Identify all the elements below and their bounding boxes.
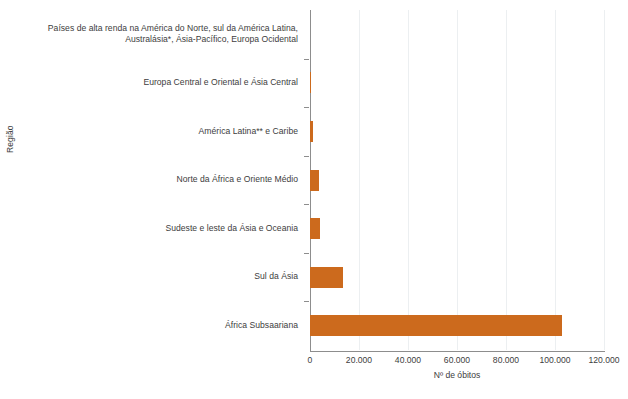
x-axis-line bbox=[310, 351, 605, 352]
bar-chart: Região Países de alta renda na América d… bbox=[0, 0, 628, 399]
y-axis-tick bbox=[304, 156, 309, 157]
x-axis-tick-label: 120.000 bbox=[588, 355, 619, 365]
y-axis-tick bbox=[304, 204, 309, 205]
category-label-row: Norte da África e Oriente Médio bbox=[18, 162, 304, 198]
category-label: Europa Central e Oriental e Ásia Central bbox=[143, 77, 304, 89]
gridline bbox=[359, 10, 360, 350]
bar bbox=[310, 267, 343, 288]
category-label: Países de alta renda na América do Norte… bbox=[28, 23, 304, 46]
x-axis-tick-label: 20.000 bbox=[346, 355, 372, 365]
category-label: América Latina** e Caribe bbox=[199, 126, 304, 138]
x-axis-tick-label: 100.000 bbox=[539, 355, 570, 365]
category-label: Norte da África e Oriente Médio bbox=[177, 174, 304, 186]
x-axis-tick-labels: 020.00040.00060.00080.000100.000120.000 bbox=[0, 355, 628, 369]
gridline bbox=[604, 10, 605, 350]
category-label-row: África Subsaariana bbox=[18, 308, 304, 344]
category-label: Sudeste e leste da Ásia e Oceania bbox=[165, 223, 304, 235]
bar bbox=[310, 315, 562, 336]
category-label: África Subsaariana bbox=[225, 320, 304, 332]
plot-area bbox=[310, 10, 604, 350]
x-axis-tick-label: 0 bbox=[308, 355, 313, 365]
category-label-column: Países de alta renda na América do Norte… bbox=[18, 10, 304, 350]
category-label-row: Europa Central e Oriental e Ásia Central bbox=[18, 65, 304, 101]
x-axis-tick-label: 80.000 bbox=[493, 355, 519, 365]
x-axis-title: Nº de óbitos bbox=[310, 370, 604, 380]
bar bbox=[310, 218, 320, 239]
gridline bbox=[555, 10, 556, 350]
category-label: Sul da Ásia bbox=[254, 271, 304, 283]
category-label-row: Sudeste e leste da Ásia e Oceania bbox=[18, 211, 304, 247]
gridline bbox=[457, 10, 458, 350]
y-axis-tick bbox=[304, 59, 309, 60]
bar bbox=[310, 121, 313, 142]
x-axis-tick-label: 40.000 bbox=[395, 355, 421, 365]
y-axis-tick bbox=[304, 107, 309, 108]
category-label-row: Sul da Ásia bbox=[18, 259, 304, 295]
x-axis-tick-label: 60.000 bbox=[444, 355, 470, 365]
category-label-row: Países de alta renda na América do Norte… bbox=[18, 16, 304, 52]
y-axis-tick bbox=[304, 301, 309, 302]
gridline bbox=[506, 10, 507, 350]
y-axis-tick bbox=[304, 253, 309, 254]
bar bbox=[310, 170, 319, 191]
y-axis-title: Região bbox=[5, 137, 15, 153]
category-label-row: América Latina** e Caribe bbox=[18, 113, 304, 149]
gridline bbox=[408, 10, 409, 350]
